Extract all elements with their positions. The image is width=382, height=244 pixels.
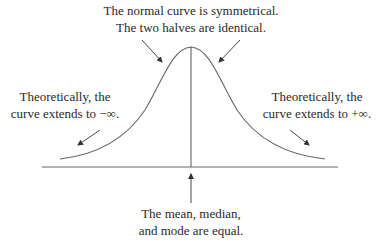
symmetry-annotation-line1: The normal curve is symmetrical. <box>100 2 282 19</box>
positive-infinity-annotation: Theoretically, the curve extends to +∞. <box>252 88 382 122</box>
negative-infinity-annotation-line2: curve extends to −∞. <box>0 105 130 122</box>
arrow-left-tail-icon <box>78 130 100 145</box>
central-tendency-annotation-line2: and mode are equal. <box>121 222 261 239</box>
arrow-left-slope-icon <box>142 40 162 62</box>
normal-curve-diagram: The normal curve is symmetrical. The two… <box>0 0 382 244</box>
central-tendency-annotation: The mean, median, and mode are equal. <box>121 205 261 239</box>
central-tendency-annotation-line1: The mean, median, <box>121 205 261 222</box>
positive-infinity-annotation-line1: Theoretically, the <box>252 88 382 105</box>
symmetry-annotation-line2: The two halves are identical. <box>100 19 282 36</box>
negative-infinity-annotation-line1: Theoretically, the <box>0 88 130 105</box>
positive-infinity-annotation-line2: curve extends to +∞. <box>252 105 382 122</box>
arrow-right-slope-icon <box>219 40 240 62</box>
symmetry-annotation: The normal curve is symmetrical. The two… <box>100 2 282 36</box>
negative-infinity-annotation: Theoretically, the curve extends to −∞. <box>0 88 130 122</box>
arrow-right-tail-icon <box>290 130 309 145</box>
